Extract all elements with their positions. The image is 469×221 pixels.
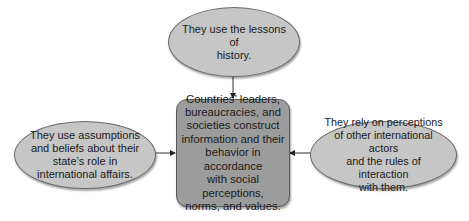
node-lessons-of-history: They use the lessons of history. <box>168 7 300 77</box>
node-text: They use assumptions and beliefs about t… <box>30 129 140 181</box>
node-state-role-beliefs: They use assumptions and beliefs about t… <box>14 121 156 189</box>
node-international-actors: They rely on perceptions of other intern… <box>310 121 457 189</box>
node-text: They use the lessons of history. <box>179 23 289 62</box>
node-central-process: Countries’ leaders, bureaucracies, and s… <box>176 99 290 207</box>
node-text: Countries’ leaders, bureaucracies, and s… <box>180 93 286 214</box>
node-text: They rely on perceptions of other intern… <box>321 116 446 194</box>
